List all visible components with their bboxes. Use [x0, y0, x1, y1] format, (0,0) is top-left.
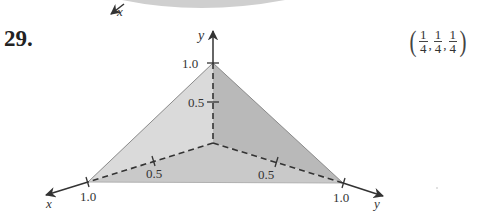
y-tick-label-1: 1.0	[333, 190, 349, 205]
previous-figure-shape	[122, 0, 285, 8]
x-tick-label-1: 1.0	[80, 189, 96, 204]
vertical-tick-label-1: 1.0	[182, 56, 198, 71]
previous-x-label: x	[116, 4, 123, 19]
vertical-tick-label-05: 0.5	[188, 95, 204, 110]
y-axis-label: y	[372, 196, 380, 211]
stray-dot	[436, 187, 438, 189]
x-tick-label-05: 0.5	[146, 166, 162, 181]
x-axis-label: x	[45, 196, 52, 211]
tetrahedron-diagram: x y 1.0 0.5 0.5 1.0 x 0.5 1.0 y	[0, 0, 484, 211]
y-tick-label-05: 0.5	[258, 167, 274, 182]
vertical-axis-label: y	[196, 28, 205, 43]
